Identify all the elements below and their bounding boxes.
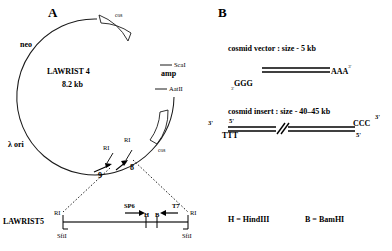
vector-right-prime: 3' (348, 64, 351, 69)
insert-break-symbol (277, 123, 289, 134)
vector-left-end: 3'GGG (231, 73, 253, 92)
bamhi-legend: B = BamHI (305, 216, 344, 224)
cosmid-insert-strands (228, 123, 355, 134)
hindiii-legend: H = HindIII (228, 216, 269, 224)
insert-right-bases: CCC (353, 120, 370, 128)
vector-right-end: AAA3' (331, 61, 351, 77)
figure-canvas: A (0, 0, 392, 251)
cosmid-insert-caption: cosmid insert : size - 40–45 kb (228, 108, 330, 116)
insert-right-inner-prime: 5' (356, 132, 361, 139)
panel-b-vector-graphics (0, 0, 392, 251)
vector-left-bases: GGG (234, 79, 253, 88)
insert-left-inner-prime: 5' (229, 118, 234, 125)
insert-right-outer-prime: 3' (375, 114, 380, 121)
vector-right-bases: AAA (331, 67, 348, 76)
cosmid-vector-strands (262, 68, 330, 72)
insert-left-outer-prime: 3' (208, 120, 213, 127)
insert-left-bases: TTT (222, 132, 238, 140)
